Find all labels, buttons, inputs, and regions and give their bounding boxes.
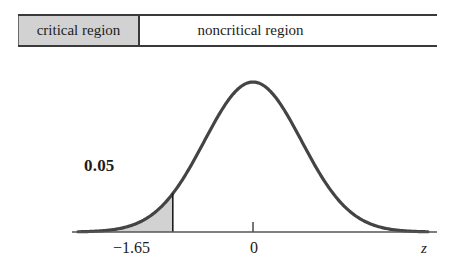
alpha-area-label: 0.05 [84,157,115,174]
normal-curve [78,82,428,232]
axis-label-zero: 0 [250,240,258,256]
axis-label-critical-value: −1.65 [113,240,150,256]
axis-variable-label: z [421,241,427,256]
normal-distribution-figure: critical region noncritical region 0.05 … [0,0,454,277]
distribution-plot [0,0,454,277]
